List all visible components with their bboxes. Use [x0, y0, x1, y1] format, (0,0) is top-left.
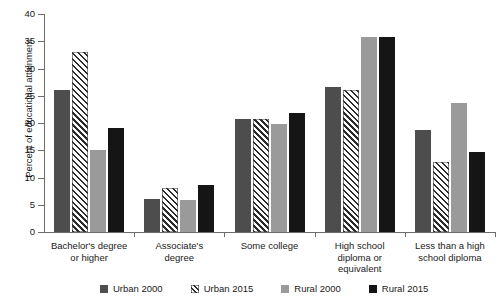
legend-swatch-icon: [191, 285, 199, 293]
y-tick-label: 30: [24, 63, 35, 74]
y-tick-5: 5: [38, 205, 44, 206]
bar-group: [415, 14, 485, 232]
y-tick-label: 5: [30, 199, 35, 210]
y-axis-line: [44, 14, 45, 233]
x-category-label: Associate'sdegree: [134, 240, 224, 263]
bar: [144, 199, 160, 232]
legend-item[interactable]: Urban 2015: [191, 283, 254, 294]
x-tick-divider: [134, 232, 135, 237]
x-category-label-line: degree: [134, 252, 224, 264]
bar: [235, 119, 251, 232]
bar-chart: Percent of educational attainment 051015…: [0, 0, 503, 305]
x-category-label: Some college: [224, 240, 314, 252]
bar: [162, 188, 178, 232]
x-category-label-line: Some college: [224, 240, 314, 252]
x-category-label-line: diploma or: [315, 252, 405, 264]
y-tick-label: 35: [24, 35, 35, 46]
x-category-label-line: Bachelor's degree: [44, 240, 134, 252]
bar-group: [325, 14, 395, 232]
bar: [325, 87, 341, 233]
bar: [343, 90, 359, 232]
x-category-label-line: Associate's: [134, 240, 224, 252]
x-tick-end: [495, 232, 496, 237]
legend-swatch-icon: [100, 285, 108, 293]
y-tick-label: 0: [30, 226, 35, 237]
y-tick-20: 20: [38, 123, 44, 124]
y-tick-40: 40: [38, 14, 44, 15]
bar: [72, 52, 88, 232]
y-tick-label: 10: [24, 172, 35, 183]
x-category-label: High schooldiploma orequivalent: [315, 240, 405, 275]
legend-swatch-icon: [281, 285, 289, 293]
y-tick-label: 40: [24, 8, 35, 19]
x-tick-divider: [405, 232, 406, 237]
bar: [198, 185, 214, 232]
x-category-label: Bachelor's degreeor higher: [44, 240, 134, 263]
x-category-label: Less than a highschool diploma: [405, 240, 495, 263]
bar: [54, 90, 70, 232]
bar: [361, 37, 377, 232]
x-category-label-line: Less than a high: [405, 240, 495, 252]
y-tick-label: 15: [24, 144, 35, 155]
bar-group: [235, 14, 305, 232]
bar: [271, 124, 287, 232]
bar: [180, 200, 196, 232]
x-axis-line: [44, 232, 495, 233]
bar: [451, 103, 467, 232]
y-tick-10: 10: [38, 178, 44, 179]
bar-group: [144, 14, 214, 232]
x-category-label-line: or higher: [44, 252, 134, 264]
bar: [289, 113, 305, 232]
y-tick-30: 30: [38, 69, 44, 70]
plot-area: 0510152025303540: [44, 14, 495, 233]
bar: [379, 37, 395, 232]
y-tick-35: 35: [38, 41, 44, 42]
legend-label: Urban 2015: [204, 283, 254, 294]
y-tick-0: 0: [38, 232, 44, 233]
x-category-label-line: school diploma: [405, 252, 495, 264]
legend-item[interactable]: Rural 2000: [281, 283, 340, 294]
x-tick-divider: [315, 232, 316, 237]
bar: [415, 130, 431, 232]
y-tick-label: 20: [24, 117, 35, 128]
legend-item[interactable]: Urban 2000: [100, 283, 163, 294]
bar: [90, 150, 106, 232]
bar: [433, 162, 449, 232]
x-category-label-line: equivalent: [315, 263, 405, 275]
bar: [469, 152, 485, 232]
x-category-label-line: High school: [315, 240, 405, 252]
x-tick-divider: [224, 232, 225, 237]
y-tick-25: 25: [38, 96, 44, 97]
legend-label: Rural 2000: [294, 283, 340, 294]
legend-label: Rural 2015: [382, 283, 428, 294]
legend-label: Urban 2000: [113, 283, 163, 294]
chart-legend: Urban 2000Urban 2015Rural 2000Rural 2015: [100, 283, 428, 294]
bar-group: [54, 14, 124, 232]
legend-swatch-icon: [369, 285, 377, 293]
legend-item[interactable]: Rural 2015: [369, 283, 428, 294]
y-tick-15: 15: [38, 150, 44, 151]
y-tick-label: 25: [24, 90, 35, 101]
bar: [253, 119, 269, 232]
bar: [108, 128, 124, 232]
